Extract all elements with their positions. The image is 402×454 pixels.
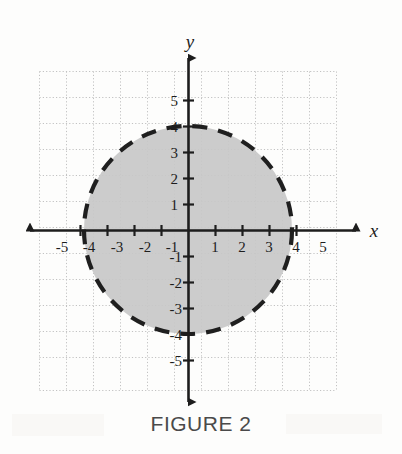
y-tick-label: -3 [170, 301, 183, 317]
y-tick-label: -5 [170, 353, 183, 369]
x-tick-label: 2 [238, 239, 246, 255]
figure-container: -5 -4 -3 -2 -1 1 2 3 4 5 5 4 3 2 1 -1 -2… [0, 0, 402, 454]
y-tick-label: 2 [171, 171, 179, 187]
x-tick-label: -3 [111, 239, 124, 255]
x-axis-label: x [369, 220, 379, 241]
x-tick-label: -4 [83, 239, 96, 255]
x-tick-label: -5 [56, 239, 69, 255]
y-tick-label: -2 [170, 275, 183, 291]
x-tick-label: 4 [292, 239, 300, 255]
y-tick-label: -1 [170, 249, 183, 265]
y-tick-label: 3 [171, 145, 179, 161]
figure-caption: FIGURE 2 [0, 412, 402, 436]
y-tick-label: 1 [171, 197, 179, 213]
coordinate-plane: -5 -4 -3 -2 -1 1 2 3 4 5 5 4 3 2 1 -1 -2… [0, 0, 402, 454]
y-tick-label: -4 [170, 327, 183, 343]
x-tick-label: -2 [139, 239, 152, 255]
y-tick-label: 5 [171, 93, 179, 109]
y-axis-label: y [184, 31, 195, 52]
x-tick-label: 1 [211, 239, 219, 255]
x-tick-label: 3 [265, 239, 273, 255]
x-tick-label: 5 [319, 239, 327, 255]
y-tick-label: 4 [171, 119, 179, 135]
